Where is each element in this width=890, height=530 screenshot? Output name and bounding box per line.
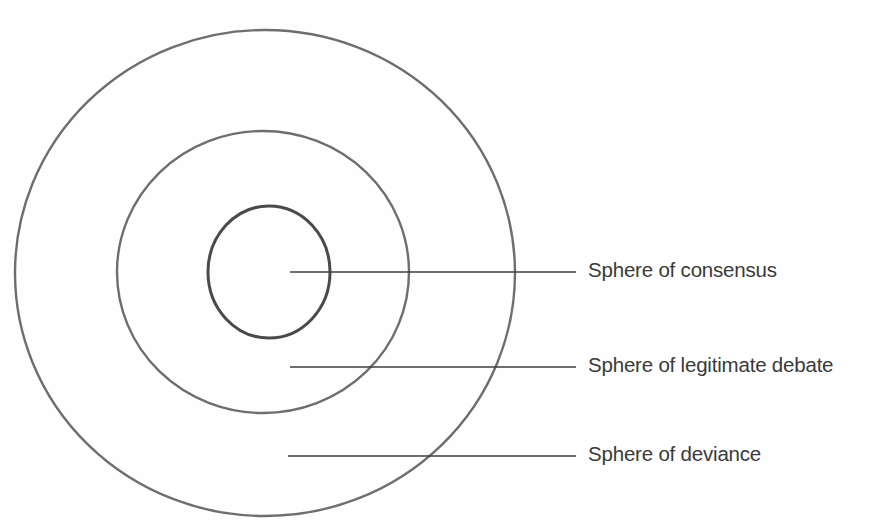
label-sphere-of-consensus: Sphere of consensus [588,260,777,281]
label-sphere-of-deviance: Sphere of deviance [588,444,761,465]
ring-outer-sphere-of-deviance [15,30,515,516]
diagram-canvas: Sphere of consensus Sphere of legitimate… [0,0,890,530]
label-sphere-of-legitimate-debate: Sphere of legitimate debate [588,355,833,376]
